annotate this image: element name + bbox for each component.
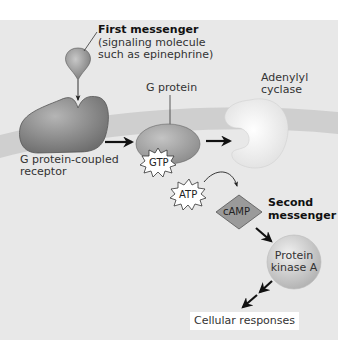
second-messenger-label-line2: messenger xyxy=(268,210,336,222)
first-messenger-molecule xyxy=(66,32,98,100)
arrow-pka-to-responses-2 xyxy=(243,295,257,307)
gtp-label: GTP xyxy=(149,157,169,169)
cellular-responses-label: Cellular responses xyxy=(190,312,299,330)
first-messenger-desc-line2: such as epinephrine) xyxy=(98,49,213,61)
g-protein-coupled-receptor xyxy=(20,96,109,153)
adenylyl-cyclase-label-line2: cyclase xyxy=(261,84,302,96)
arrow-atp-to-camp xyxy=(204,172,237,186)
protein-kinase-label-line2: kinase A xyxy=(267,262,321,274)
camp-label: cAMP xyxy=(223,206,250,218)
arrow-camp-to-pka xyxy=(256,228,271,241)
atp-label: ATP xyxy=(179,189,197,201)
g-protein-label: G protein xyxy=(146,82,197,94)
first-messenger-title: First messenger xyxy=(98,24,198,36)
arrow-pka-to-responses-1 xyxy=(260,281,272,292)
receptor-label-line2: receptor xyxy=(20,166,66,178)
second-messenger-label-line1: Second xyxy=(268,197,313,209)
adenylyl-cyclase xyxy=(225,99,288,168)
